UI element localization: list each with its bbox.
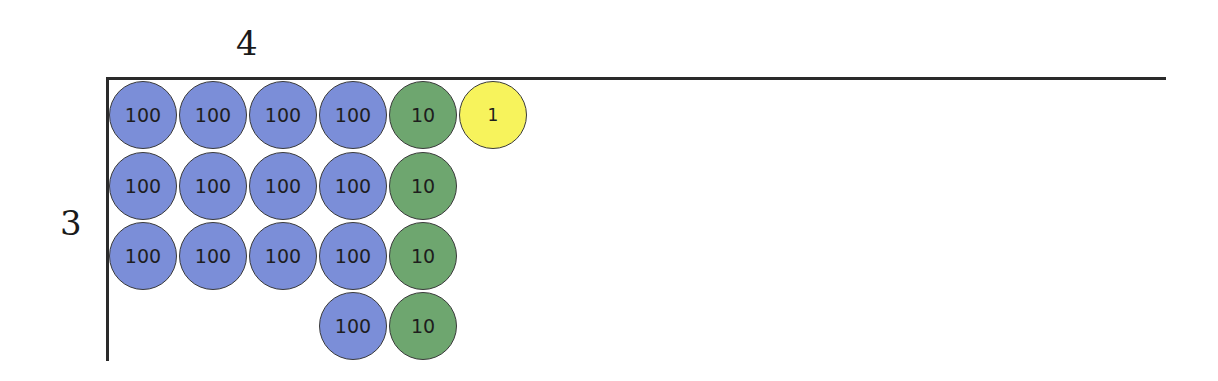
chip-hundred: 100 [319, 292, 387, 360]
chip-hundred: 100 [179, 81, 247, 149]
chip-hundred: 100 [249, 222, 317, 290]
chip-one: 1 [459, 81, 527, 149]
chip-hundred: 100 [179, 222, 247, 290]
chip-hundred: 100 [109, 81, 177, 149]
chip-hundred: 100 [319, 81, 387, 149]
divisor-top-label: 4 [236, 26, 258, 60]
chip-ten: 10 [389, 222, 457, 290]
chip-ten: 10 [389, 81, 457, 149]
chip-hundred: 100 [319, 222, 387, 290]
chip-ten: 10 [389, 152, 457, 220]
chip-hundred: 100 [319, 152, 387, 220]
chip-ten: 10 [389, 292, 457, 360]
chip-hundred: 100 [179, 152, 247, 220]
chip-hundred: 100 [249, 152, 317, 220]
top-boundary-line [106, 77, 1166, 80]
divisor-side-label: 3 [60, 206, 82, 240]
chip-hundred: 100 [249, 81, 317, 149]
chip-hundred: 100 [109, 222, 177, 290]
chip-hundred: 100 [109, 152, 177, 220]
